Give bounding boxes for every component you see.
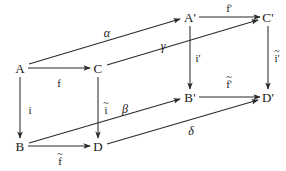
vertex-label-B: B [16, 140, 25, 153]
tilde-accent-wrapper: ~i' [274, 53, 279, 64]
vertex-label-Ap: A' [184, 11, 196, 24]
edge-label-B-to-Bp: β [122, 103, 128, 115]
arrow-C-to-Cp [107, 20, 258, 65]
vertex-label-A: A [15, 62, 25, 75]
edge-label-A-to-Ap: α [104, 27, 110, 39]
edge-label-D-to-Dp: δ [188, 125, 194, 137]
edge-label-Ap-to-Cp: f' [226, 3, 232, 14]
edge-label-Ap-to-Bp: i' [195, 53, 200, 64]
vertex-label-C: C [94, 62, 103, 75]
edge-label-A-to-B: i [28, 105, 31, 116]
tilde-accent-wrapper: ~f [58, 156, 62, 167]
edge-label-C-to-Cp: γ [161, 40, 166, 52]
edge-label-C-to-D: ~i [104, 105, 107, 116]
vertex-label-Dp: D' [262, 91, 274, 104]
diagram-arrows [0, 0, 286, 171]
tilde-icon: ~ [274, 45, 279, 55]
commutative-diagram: ACBDA'C'B'D'fi~i~ff'i'~i'~f'αγβδ [0, 0, 286, 171]
tilde-icon: ~ [226, 71, 231, 81]
vertex-label-D: D [93, 140, 103, 153]
tilde-accent-wrapper: ~f' [226, 79, 232, 90]
edge-label-Cp-to-Dp: ~i' [274, 53, 279, 64]
vertex-label-Cp: C' [262, 11, 273, 24]
edge-label-A-to-C: f [57, 78, 61, 89]
arrow-D-to-Dp [107, 100, 258, 144]
tilde-icon: ~ [103, 97, 108, 107]
tilde-accent-wrapper: ~i [104, 105, 107, 116]
edge-label-B-to-D: ~f [58, 156, 62, 167]
vertex-label-Bp: B' [184, 91, 195, 104]
tilde-icon: ~ [57, 148, 62, 158]
edge-label-Bp-to-Dp: ~f' [226, 79, 232, 90]
